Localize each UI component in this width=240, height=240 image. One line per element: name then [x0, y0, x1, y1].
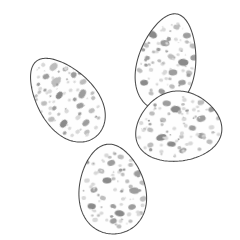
eggs-illustration-svg	[0, 0, 240, 240]
egg-illustration-canvas: Four speckled birds' eggs	[0, 0, 240, 240]
egg-speckle	[169, 69, 178, 75]
